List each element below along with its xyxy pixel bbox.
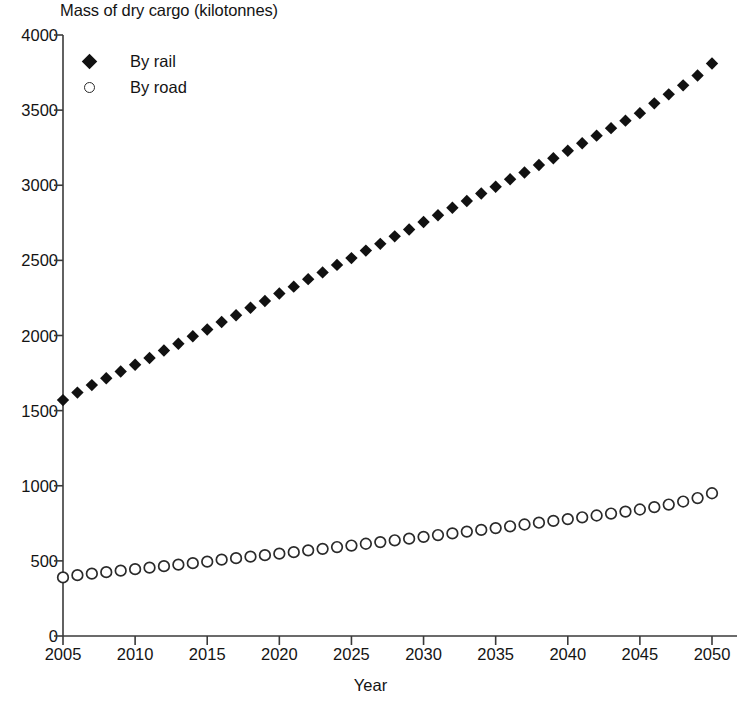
data-point-marker — [215, 316, 227, 328]
open-circle-icon — [84, 82, 95, 93]
data-point-marker — [159, 561, 170, 572]
data-point-marker — [461, 195, 473, 207]
filled-diamond-icon — [82, 53, 98, 69]
data-point-marker — [462, 526, 473, 537]
data-point-marker — [288, 280, 300, 292]
data-point-marker — [361, 538, 372, 549]
legend-marker-by-road — [78, 82, 130, 93]
data-point-marker — [302, 273, 314, 285]
data-point-marker — [273, 287, 285, 299]
data-point-marker — [101, 567, 112, 578]
data-point-marker — [576, 137, 588, 149]
data-point-marker — [635, 504, 646, 515]
data-point-marker — [332, 542, 343, 553]
data-point-marker — [303, 545, 314, 556]
data-point-marker — [331, 259, 343, 271]
data-point-marker — [619, 114, 631, 126]
data-point-marker — [87, 568, 98, 579]
data-point-marker — [71, 386, 83, 398]
data-point-marker — [547, 152, 559, 164]
data-point-marker — [216, 554, 227, 565]
data-point-marker — [475, 187, 487, 199]
data-point-marker — [144, 562, 155, 573]
data-point-marker — [518, 166, 530, 178]
legend-item-by-rail: By rail — [78, 48, 187, 74]
data-point-marker — [245, 551, 256, 562]
data-point-marker — [490, 523, 501, 534]
data-point-marker — [620, 506, 631, 517]
data-point-marker — [201, 323, 213, 335]
data-point-marker — [446, 202, 458, 214]
data-point-marker — [533, 159, 545, 171]
data-point-marker — [476, 525, 487, 536]
data-point-marker — [678, 496, 689, 507]
data-point-marker — [447, 528, 458, 539]
data-point-marker — [519, 519, 530, 530]
data-point-marker — [548, 516, 559, 527]
data-point-marker — [57, 394, 69, 406]
data-point-marker — [58, 572, 69, 583]
legend-label-by-rail: By rail — [130, 52, 176, 71]
x-axis-title: Year — [0, 676, 741, 695]
data-point-marker — [663, 88, 675, 100]
series-by-rail — [57, 57, 718, 406]
legend-item-by-road: By road — [78, 74, 187, 100]
data-point-marker — [634, 107, 646, 119]
data-point-marker — [72, 570, 83, 581]
data-point-marker — [86, 379, 98, 391]
data-point-marker — [173, 559, 184, 570]
data-point-marker — [504, 173, 516, 185]
data-point-marker — [172, 338, 184, 350]
data-point-marker — [187, 330, 199, 342]
data-point-marker — [432, 209, 444, 221]
data-point-marker — [230, 309, 242, 321]
data-point-marker — [591, 510, 602, 521]
data-point-marker — [403, 223, 415, 235]
data-point-marker — [115, 565, 126, 576]
data-point-marker — [375, 537, 386, 548]
data-point-marker — [130, 564, 141, 575]
data-point-marker — [577, 512, 588, 523]
data-point-marker — [114, 365, 126, 377]
legend-label-by-road: By road — [130, 78, 187, 97]
data-point-marker — [389, 230, 401, 242]
data-point-marker — [649, 502, 660, 513]
data-point-marker — [244, 302, 256, 314]
data-point-marker — [260, 550, 271, 561]
data-point-marker — [202, 556, 213, 567]
data-point-marker — [648, 97, 660, 109]
data-point-marker — [143, 352, 155, 364]
data-point-marker — [417, 216, 429, 228]
data-point-marker — [418, 532, 429, 543]
data-point-marker — [606, 508, 617, 519]
data-point-marker — [404, 533, 415, 544]
data-point-marker — [590, 129, 602, 141]
data-point-marker — [317, 544, 328, 555]
data-point-marker — [562, 144, 574, 156]
data-point-marker — [129, 359, 141, 371]
data-point-marker — [706, 57, 718, 69]
data-point-marker — [534, 517, 545, 528]
data-point-marker — [489, 181, 501, 193]
data-point-marker — [707, 488, 718, 499]
data-point-marker — [505, 521, 516, 532]
legend-marker-by-rail — [78, 56, 130, 67]
series-by-road — [58, 488, 718, 583]
data-point-marker — [562, 514, 573, 525]
data-point-marker — [692, 493, 703, 504]
data-point-marker — [345, 252, 357, 264]
plot-area — [0, 0, 741, 701]
data-point-marker — [374, 238, 386, 250]
data-point-marker — [259, 295, 271, 307]
data-point-marker — [188, 558, 199, 569]
chart-legend: By rail By road — [78, 48, 187, 100]
data-point-marker — [231, 553, 242, 564]
data-point-marker — [316, 266, 328, 278]
data-point-marker — [288, 547, 299, 558]
data-point-marker — [274, 548, 285, 559]
chart-figure: Mass of dry cargo (kilotonnes) 050010001… — [0, 0, 741, 701]
data-point-marker — [158, 344, 170, 356]
data-point-marker — [389, 535, 400, 546]
data-point-marker — [677, 79, 689, 91]
data-point-marker — [663, 499, 674, 510]
